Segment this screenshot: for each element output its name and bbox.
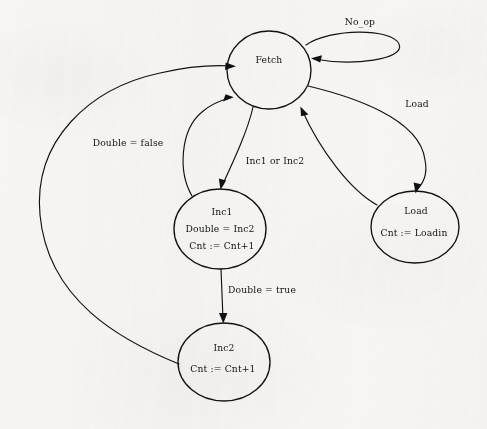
- edge-path-fetch-to-inc1: [222, 107, 253, 186]
- edge-fetch-to-inc1: Inc1 or Inc2: [219, 107, 305, 190]
- node-inc2[interactable]: Inc2 Cnt := Cnt+1: [178, 323, 270, 401]
- arrowhead-inc1-to-fetch: [223, 94, 234, 101]
- node-fetch[interactable]: Fetch: [227, 31, 311, 109]
- node-inc1[interactable]: Inc1 Double = Inc2 Cnt := Cnt+1: [174, 189, 266, 269]
- arrowhead-fetch-to-load: [414, 182, 422, 193]
- edge-label-load: Load: [405, 98, 429, 109]
- arrowhead-inc1-to-inc2: [219, 313, 227, 324]
- state-diagram: No_op Load Inc1 or Inc2 Double =: [0, 0, 487, 429]
- edge-inc1-to-fetch: [183, 94, 234, 196]
- edge-label-double-true: Double = true: [228, 284, 296, 295]
- edge-fetch-to-load: Load: [308, 86, 429, 194]
- edge-label-double-false: Double = false: [93, 137, 164, 148]
- arrowhead-noop: [311, 55, 322, 62]
- arrowhead-load-to-fetch: [300, 107, 308, 117]
- diagram-canvas: No_op Load Inc1 or Inc2 Double =: [0, 0, 487, 429]
- node-fetch-label-0: Fetch: [256, 54, 283, 65]
- edge-path-load-to-fetch: [302, 110, 377, 205]
- node-fetch-ellipse: [227, 31, 311, 109]
- node-load-label-1: Cnt := Loadin: [380, 227, 447, 238]
- edge-label-inc1-or-inc2: Inc1 or Inc2: [246, 155, 305, 166]
- node-inc1-label-2: Cnt := Cnt+1: [189, 240, 254, 251]
- edge-path-inc1-to-inc2: [221, 269, 223, 319]
- edge-inc1-to-inc2: Double = true: [219, 269, 296, 324]
- node-inc2-label-0: Inc2: [213, 342, 234, 353]
- edge-fetch-self-noop: No_op: [306, 16, 400, 63]
- node-inc2-label-1: Cnt := Cnt+1: [190, 363, 255, 374]
- node-load-label-0: Load: [404, 205, 428, 216]
- node-inc1-label-1: Double = Inc2: [185, 223, 254, 234]
- edge-inc2-to-fetch: Double = false: [39, 62, 236, 364]
- node-inc1-label-0: Inc1: [211, 206, 232, 217]
- edge-load-to-fetch: [300, 107, 377, 205]
- edge-label-noop: No_op: [345, 16, 375, 28]
- node-load[interactable]: Load Cnt := Loadin: [371, 191, 459, 263]
